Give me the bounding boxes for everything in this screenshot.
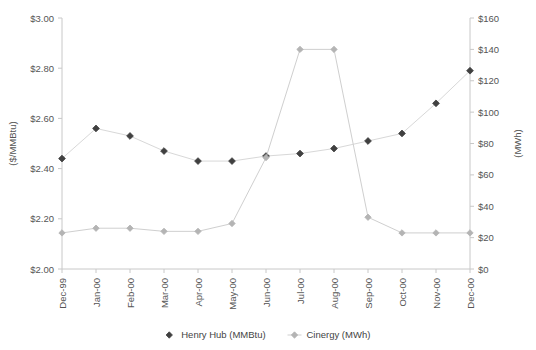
x-axis-tick-label: Dec-99	[57, 278, 68, 309]
left-axis-tick-label: $2.60	[30, 113, 54, 124]
x-axis-tick-label: Sep-00	[363, 278, 374, 309]
chart-container: $2.00$2.20$2.40$2.60$2.80$3.00 $0$20$40$…	[0, 0, 536, 350]
right-axis-title: (MWh)	[512, 129, 523, 158]
x-axis-tick-label: Apr-00	[193, 278, 204, 307]
left-axis: $2.00$2.20$2.40$2.60$2.80$3.00	[30, 13, 62, 275]
left-axis-tick-label: $2.00	[30, 264, 54, 275]
left-axis-title: ($/MMBtu)	[7, 121, 18, 165]
right-axis-tick-label: $120	[478, 75, 499, 86]
right-axis-tick-label: $40	[478, 201, 494, 212]
legend-label: Henry Hub (MMBtu)	[181, 329, 265, 340]
right-axis-tick-label: $160	[478, 13, 499, 24]
x-axis-tick-label: Jul-00	[295, 278, 306, 304]
x-axis-tick-label: Jan-00	[91, 278, 102, 307]
x-axis-tick-label: Nov-00	[431, 278, 442, 309]
legend-item-cinergy[interactable]: Cinergy (MWh)	[288, 329, 371, 340]
legend-item-henry-hub[interactable]: Henry Hub (MMBtu)	[166, 329, 266, 340]
line-chart: $2.00$2.20$2.40$2.60$2.80$3.00 $0$20$40$…	[0, 0, 536, 350]
right-axis-tick-label: $0	[478, 264, 489, 275]
plot-background	[62, 18, 470, 269]
right-axis-tick-label: $60	[478, 169, 494, 180]
x-axis-tick-label: Feb-00	[125, 278, 136, 308]
legend-label: Cinergy (MWh)	[307, 329, 371, 340]
legend-marker-cinergy	[291, 332, 297, 338]
x-axis-tick-label: Mar-00	[159, 278, 170, 308]
right-axis-tick-label: $20	[478, 232, 494, 243]
x-axis-tick-label: Aug-00	[329, 278, 340, 309]
left-axis-tick-label: $2.40	[30, 163, 54, 174]
x-axis-tick-label: Oct-00	[397, 278, 408, 307]
left-axis-tick-label: $3.00	[30, 13, 54, 24]
left-axis-tick-label: $2.80	[30, 63, 54, 74]
right-axis-tick-label: $140	[478, 44, 499, 55]
left-axis-tick-label: $2.20	[30, 213, 54, 224]
right-axis-tick-label: $100	[478, 107, 499, 118]
right-axis-tick-label: $80	[478, 138, 494, 149]
chart-legend: Henry Hub (MMBtu)Cinergy (MWh)	[166, 329, 370, 340]
x-axis-tick-label: May-00	[227, 278, 238, 310]
x-axis: Dec-99Jan-00Feb-00Mar-00Apr-00May-00Jun-…	[57, 269, 476, 310]
x-axis-tick-label: Jun-00	[261, 278, 272, 307]
legend-marker-henry-hub	[166, 332, 172, 338]
right-axis: $0$20$40$60$80$100$120$140$160	[470, 13, 499, 275]
x-axis-tick-label: Dec-00	[465, 278, 476, 309]
